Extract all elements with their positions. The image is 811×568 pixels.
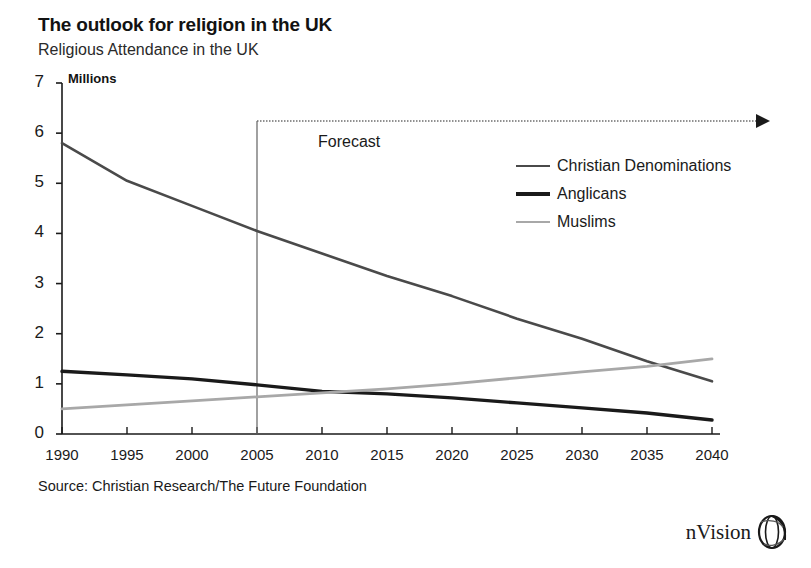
chart-container: The outlook for religion in the UK Relig… [0,0,811,568]
axes-layer [56,83,720,434]
y-axis-tick-label: 5 [20,172,44,192]
x-axis-tick-label: 2025 [487,446,547,463]
legend-swatch-icon [516,221,550,224]
y-axis-tick-label: 3 [20,273,44,293]
series-line-anglicans [62,371,712,420]
y-axis-tick-label: 1 [20,373,44,393]
y-axis-tick-label: 7 [20,72,44,92]
x-axis-tick-label: 2010 [292,446,352,463]
x-axis-tick-label: 1990 [32,446,92,463]
x-axis-tick-label: 2020 [422,446,482,463]
chart-legend: Christian DenominationsAnglicansMuslims [516,152,731,236]
legend-swatch-icon [516,192,550,195]
y-axis-tick-label: 4 [20,222,44,242]
legend-label: Christian Denominations [557,157,731,175]
source-note: Source: Christian Research/The Future Fo… [38,478,367,494]
legend-item-christian-denominations[interactable]: Christian Denominations [516,152,731,180]
y-axis-tick-label: 6 [20,122,44,142]
legend-label: Muslims [557,213,616,231]
right-arrow-icon [756,114,770,128]
x-axis-tick-label: 2030 [552,446,612,463]
forecast-annotation-label: Forecast [318,133,380,151]
x-axis-tick-label: 2000 [162,446,222,463]
legend-item-anglicans[interactable]: Anglicans [516,180,731,208]
y-axis-tick-label: 0 [20,423,44,443]
legend-swatch-icon [516,165,550,168]
y-axis-tick-label: 2 [20,323,44,343]
series-line-muslims [62,359,712,409]
legend-item-muslims[interactable]: Muslims [516,208,731,236]
x-axis-tick-label: 2040 [682,446,742,463]
brand-name: nVision [686,520,751,545]
brand-logo: nVision [686,514,789,550]
x-axis-tick-label: 1995 [97,446,157,463]
x-axis-tick-label: 2035 [617,446,677,463]
x-axis-tick-label: 2005 [227,446,287,463]
x-axis-tick-label: 2015 [357,446,417,463]
legend-label: Anglicans [557,185,626,203]
globe-logo-icon [755,514,789,550]
